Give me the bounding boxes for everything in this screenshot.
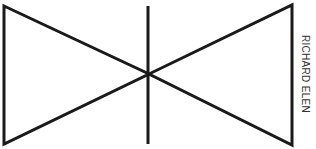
symbol-drawing [0,0,316,149]
right-triangle [149,5,292,145]
left-triangle [4,6,149,144]
author-credit: RICHARD ELEN [300,35,311,113]
diagram-canvas: RICHARD ELEN [0,0,316,149]
